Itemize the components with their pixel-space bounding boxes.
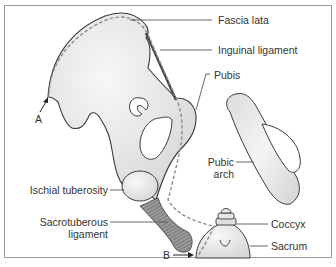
label-ischial-tuberosity: Ischial tuberosity	[10, 184, 108, 196]
sacrum-coccyx	[196, 209, 250, 259]
hip-bone	[48, 13, 196, 200]
label-sacrum: Sacrum	[271, 240, 307, 252]
ischial-tuberosity	[122, 171, 158, 201]
label-sacrotuberous-ligament: Sacrotuberous ligament	[10, 216, 108, 240]
label-fascia-lata: Fascia lata	[218, 14, 269, 26]
label-coccyx: Coccyx	[271, 218, 305, 230]
pubic-arch-bone	[227, 94, 301, 205]
label-point-b: B	[163, 249, 170, 261]
sacrotuberous-ligament	[140, 198, 192, 252]
label-pubis: Pubis	[214, 69, 240, 81]
label-pubic-arch: Pubic arch	[204, 156, 234, 180]
label-point-a: A	[35, 113, 42, 125]
label-inguinal-ligament: Inguinal ligament	[218, 44, 297, 56]
